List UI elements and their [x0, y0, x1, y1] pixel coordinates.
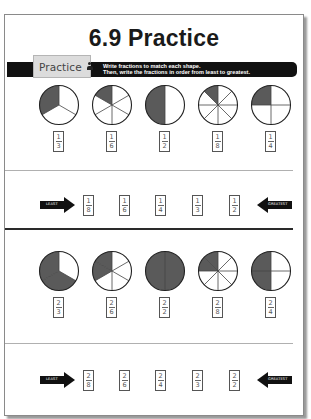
fraction-answer-box[interactable]: 26	[106, 297, 117, 318]
numerator: 2	[266, 299, 275, 307]
fraction-circle	[250, 84, 292, 126]
practice-tab: Practice	[33, 55, 91, 78]
greatest-label: GREATEST	[268, 377, 287, 381]
ordered-fraction-box[interactable]: 22	[229, 370, 240, 391]
fraction-circle	[38, 84, 80, 126]
numerator: 1	[230, 197, 239, 205]
ordered-fraction-box[interactable]: 26	[119, 370, 130, 391]
numerator: 2	[230, 372, 239, 380]
denominator: 6	[120, 206, 129, 214]
greatest-label: GREATEST	[268, 202, 287, 206]
denominator: 4	[266, 308, 275, 316]
ordered-fraction-box[interactable]: 12	[229, 195, 240, 216]
denominator: 3	[54, 142, 63, 150]
numerator: 2	[107, 299, 116, 307]
ordered-fraction-box[interactable]: 18	[83, 195, 94, 216]
fraction-answer-box[interactable]: 12	[159, 131, 170, 152]
denominator: 4	[266, 142, 275, 150]
person-icon	[87, 62, 90, 71]
instruction-line-2: Then, write the fractions in order from …	[103, 69, 250, 75]
divider-thin	[5, 170, 293, 171]
instructions: Write fractions to match each shape. The…	[103, 63, 250, 76]
numerator: 2	[213, 299, 222, 307]
fraction-circle	[91, 250, 133, 292]
denominator: 3	[193, 381, 202, 389]
denominator: 2	[230, 206, 239, 214]
denominator: 6	[107, 308, 116, 316]
denominator: 8	[213, 142, 222, 150]
fraction-answer-box[interactable]: 28	[212, 297, 223, 318]
worksheet-page: 6.9 Practice Write fractions to match ea…	[4, 14, 304, 416]
numerator: 1	[193, 197, 202, 205]
ordered-fraction-box[interactable]: 28	[83, 370, 94, 391]
numerator: 1	[156, 197, 165, 205]
fraction-answer-box[interactable]: 18	[212, 131, 223, 152]
fraction-circle	[91, 84, 133, 126]
ordered-fraction-box[interactable]: 24	[155, 370, 166, 391]
numerator: 1	[266, 133, 275, 141]
greatest-arrow: GREATEST	[256, 372, 292, 388]
least-label: LEAST	[46, 377, 58, 381]
denominator: 2	[160, 142, 169, 150]
denominator: 3	[54, 308, 63, 316]
fraction-circle	[250, 250, 292, 292]
practice-tab-label: Practice	[39, 61, 82, 73]
numerator: 1	[84, 197, 93, 205]
numerator: 2	[193, 372, 202, 380]
greatest-arrow: GREATEST	[256, 197, 292, 213]
fraction-answer-box[interactable]: 13	[53, 131, 64, 152]
ordered-fraction-box[interactable]: 14	[155, 195, 166, 216]
numerator: 1	[120, 197, 129, 205]
denominator: 4	[156, 381, 165, 389]
fraction-answer-box[interactable]: 23	[53, 297, 64, 318]
denominator: 3	[193, 206, 202, 214]
denominator: 2	[230, 381, 239, 389]
numerator: 2	[54, 299, 63, 307]
numerator: 2	[156, 372, 165, 380]
denominator: 6	[107, 142, 116, 150]
denominator: 8	[84, 206, 93, 214]
numerator: 2	[160, 299, 169, 307]
ordered-fraction-box[interactable]: 13	[192, 195, 203, 216]
fraction-answer-box[interactable]: 22	[159, 297, 170, 318]
numerator: 1	[160, 133, 169, 141]
denominator: 8	[84, 381, 93, 389]
fraction-circle	[144, 250, 186, 292]
denominator: 4	[156, 206, 165, 214]
numerator: 1	[54, 133, 63, 141]
fraction-circle	[144, 84, 186, 126]
page-title: 6.9 Practice	[5, 25, 303, 52]
fraction-answer-box[interactable]: 16	[106, 131, 117, 152]
ordered-fraction-box[interactable]: 23	[192, 370, 203, 391]
denominator: 8	[213, 308, 222, 316]
numerator: 1	[107, 133, 116, 141]
numerator: 2	[120, 372, 129, 380]
fraction-circle	[197, 250, 239, 292]
fraction-answer-box[interactable]: 24	[265, 297, 276, 318]
divider-thin	[5, 343, 293, 344]
fraction-circle	[38, 250, 80, 292]
numerator: 1	[213, 133, 222, 141]
ordered-fraction-box[interactable]: 16	[119, 195, 130, 216]
numerator: 2	[84, 372, 93, 380]
divider-thick	[5, 228, 293, 230]
denominator: 6	[120, 381, 129, 389]
fraction-answer-box[interactable]: 14	[265, 131, 276, 152]
least-arrow: LEAST	[40, 197, 76, 213]
least-arrow: LEAST	[40, 372, 76, 388]
fraction-circle	[197, 84, 239, 126]
least-label: LEAST	[46, 202, 58, 206]
denominator: 2	[160, 308, 169, 316]
